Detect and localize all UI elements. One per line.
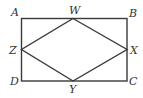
rectangle-abcd	[22, 19, 128, 82]
geometry-diagram: A W B Z X D Y C	[0, 0, 143, 98]
label-d: D	[9, 75, 19, 88]
label-w: W	[69, 4, 82, 17]
label-x: X	[129, 44, 139, 57]
label-c: C	[129, 75, 138, 88]
label-a: A	[10, 6, 19, 19]
label-b: B	[128, 7, 137, 20]
label-y: Y	[69, 83, 78, 96]
rhombus-wxyz	[22, 19, 128, 82]
label-z: Z	[8, 44, 17, 57]
